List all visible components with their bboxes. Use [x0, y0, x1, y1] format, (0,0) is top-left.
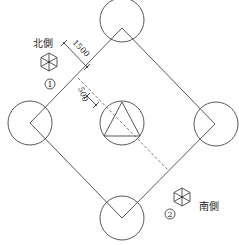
- north-side-label: 北側: [33, 37, 53, 49]
- dashed-line: [78, 78, 168, 170]
- dimension-1500: 1500: [61, 38, 91, 70]
- plan-diagram: 1500 500 北側 1 2 南側: [0, 0, 239, 245]
- top-hatched-circle: [100, 0, 144, 42]
- diamond-outline: [30, 28, 215, 218]
- south-marker: 2 南側: [165, 188, 219, 219]
- marker-2-number: 2: [168, 210, 173, 219]
- hexagon-marker-icon: [41, 53, 57, 71]
- triangle-icon: [104, 102, 140, 136]
- hexagon-marker-icon: [174, 188, 190, 206]
- south-side-label: 南側: [199, 200, 219, 212]
- diagram-canvas: 1500 500 北側 1 2 南側: [0, 0, 239, 245]
- dimension-500-label: 500: [76, 86, 90, 103]
- dimension-500: 500: [76, 86, 99, 108]
- marker-1-number: 1: [48, 80, 53, 89]
- dimension-1500-label: 1500: [71, 38, 92, 59]
- north-marker: 北側 1: [33, 37, 57, 89]
